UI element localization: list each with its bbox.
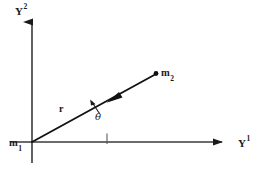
theta-pointer-arrowhead <box>90 99 95 105</box>
horizontal-axis-label: Y1 <box>238 136 250 149</box>
mass-two-label-subscript: 2 <box>170 74 174 83</box>
angle-theta-label: θ <box>95 112 101 122</box>
vertical-axis-label-base: Y <box>15 5 23 17</box>
vertical-axis-label: Y2 <box>15 4 27 17</box>
mass-one-label-subscript: 1 <box>18 144 22 153</box>
position-vector-line <box>32 74 156 142</box>
vertical-axis-label-superscript: 2 <box>23 2 27 11</box>
figure-container: Y2 Y1 m1 m2 r θ <box>0 0 266 174</box>
mass-two-dot <box>154 71 159 76</box>
horizontal-axis-label-superscript: 1 <box>246 134 250 143</box>
mass-two-label-base: m <box>161 67 170 78</box>
coordinate-diagram-svg <box>0 0 266 174</box>
horizontal-axis-label-base: Y <box>238 137 246 149</box>
position-vector-label: r <box>59 104 63 114</box>
mass-one-label: m1 <box>9 138 22 151</box>
mass-one-label-base: m <box>9 137 18 148</box>
mass-two-label: m2 <box>161 68 174 81</box>
